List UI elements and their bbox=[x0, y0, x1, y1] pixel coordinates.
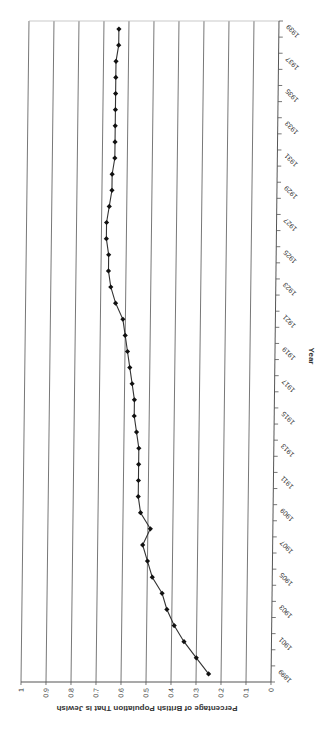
year-tick-label: 1921 bbox=[281, 313, 297, 329]
gridline bbox=[21, 21, 29, 682]
data-point-marker bbox=[164, 607, 169, 612]
data-point-marker bbox=[140, 542, 145, 547]
data-point-marker bbox=[172, 623, 177, 628]
series-line bbox=[101, 29, 216, 674]
data-point-marker bbox=[104, 236, 109, 241]
data-point-marker bbox=[116, 26, 121, 31]
data-point-marker bbox=[113, 59, 118, 64]
data-point-marker bbox=[116, 43, 121, 48]
year-tick-label: 1933 bbox=[283, 120, 299, 136]
data-point-marker bbox=[106, 268, 111, 273]
data-point-marker bbox=[150, 575, 155, 580]
data-point-marker bbox=[136, 478, 141, 483]
data-point-marker bbox=[136, 494, 141, 499]
data-point-marker bbox=[109, 188, 114, 193]
data-point-marker bbox=[145, 558, 150, 563]
year-tick-label: 1923 bbox=[281, 281, 297, 297]
percentage-tick-label: 0.9 bbox=[42, 688, 49, 698]
year-tick-label: 1935 bbox=[284, 88, 300, 104]
data-point-marker bbox=[129, 381, 134, 386]
year-tick-labels: 1899190119031905190719091911191319151917… bbox=[277, 23, 301, 684]
data-point-marker bbox=[123, 333, 128, 338]
data-point-marker bbox=[120, 317, 125, 322]
percentage-tick-label: 0.2 bbox=[217, 688, 224, 698]
data-point-marker bbox=[112, 155, 117, 160]
data-point-marker bbox=[113, 107, 118, 112]
percentage-tick-label: 0.4 bbox=[167, 688, 174, 698]
data-point-marker bbox=[125, 349, 130, 354]
data-point-marker bbox=[132, 413, 137, 418]
year-tick-label: 1901 bbox=[277, 636, 293, 652]
gridline bbox=[46, 21, 54, 682]
percentage-tick-label: 0.1 bbox=[242, 688, 249, 698]
year-tick-label: 1925 bbox=[282, 249, 298, 265]
data-point-marker bbox=[113, 91, 118, 96]
data-point-marker bbox=[148, 526, 153, 531]
percentage-tick-label: 0.5 bbox=[142, 688, 149, 698]
line-chart: 00.10.20.30.40.50.60.70.80.91 1899190119… bbox=[0, 0, 326, 730]
data-point-marker bbox=[113, 75, 118, 80]
data-point-marker bbox=[106, 252, 111, 257]
percentage-tick-labels: 00.10.20.30.40.50.60.70.80.91 bbox=[17, 688, 274, 698]
year-tick-label: 1899 bbox=[277, 668, 293, 684]
percentage-tick-label: 1 bbox=[17, 688, 24, 692]
data-point-marker bbox=[136, 462, 141, 467]
gridline bbox=[221, 21, 229, 682]
year-tick-label: 1931 bbox=[283, 152, 299, 168]
data-point-marker bbox=[159, 591, 164, 596]
year-tick-label: 1929 bbox=[283, 185, 299, 201]
data-point-marker bbox=[107, 204, 112, 209]
gridline bbox=[196, 21, 204, 682]
data-point-marker bbox=[104, 220, 109, 225]
data-point-marker bbox=[138, 510, 143, 515]
year-tick-label: 1939 bbox=[285, 23, 301, 39]
year-tick-label: 1913 bbox=[280, 442, 296, 458]
gridlines bbox=[21, 21, 254, 682]
data-point-marker bbox=[136, 446, 141, 451]
year-tick-label: 1909 bbox=[279, 507, 295, 523]
data-series bbox=[98, 26, 219, 676]
year-tick-label: 1927 bbox=[282, 217, 298, 233]
year-tick-label: 1907 bbox=[278, 539, 294, 555]
gridline bbox=[96, 21, 104, 682]
year-tick-label: 1903 bbox=[278, 604, 294, 620]
data-point-marker bbox=[112, 139, 117, 144]
year-tick-label: 1937 bbox=[284, 56, 300, 72]
gridline bbox=[246, 21, 254, 682]
gridline bbox=[71, 21, 79, 682]
data-point-marker bbox=[132, 397, 137, 402]
data-point-marker bbox=[113, 123, 118, 128]
year-tick-label: 1919 bbox=[281, 346, 297, 362]
gridline bbox=[146, 21, 154, 682]
year-axis-line bbox=[271, 21, 279, 682]
data-point-marker bbox=[110, 172, 115, 177]
year-tick-label: 1905 bbox=[278, 571, 294, 587]
percentage-axis-title: Percentage of British Population That is… bbox=[56, 704, 237, 713]
year-tick-label: 1911 bbox=[279, 475, 295, 491]
data-point-marker bbox=[127, 365, 132, 370]
plot-area: 00.10.20.30.40.50.60.70.80.91 1899190119… bbox=[17, 21, 300, 698]
percentage-tick-label: 0.3 bbox=[192, 688, 199, 698]
percentage-tick-label: 0 bbox=[267, 688, 274, 692]
data-point-marker bbox=[113, 301, 118, 306]
data-point-marker bbox=[134, 430, 139, 435]
percentage-tick-label: 0.7 bbox=[92, 688, 99, 698]
gridline bbox=[171, 21, 179, 682]
year-axis-title: Year bbox=[307, 348, 316, 365]
data-point-marker bbox=[108, 284, 113, 289]
percentage-tick-label: 0.8 bbox=[67, 688, 74, 698]
percentage-tick-label: 0.6 bbox=[117, 688, 124, 698]
axes bbox=[21, 21, 283, 685]
year-tick-label: 1917 bbox=[280, 378, 296, 394]
year-tick-label: 1915 bbox=[280, 410, 296, 426]
